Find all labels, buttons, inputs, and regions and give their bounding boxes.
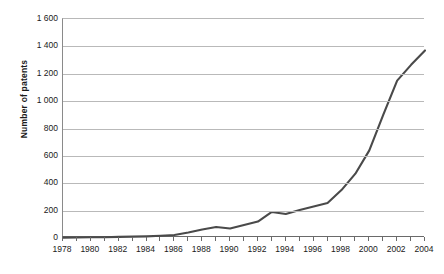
x-tick bbox=[271, 237, 272, 241]
x-tick bbox=[229, 237, 230, 241]
y-tick-label: 0 bbox=[53, 232, 58, 242]
x-tick-label: 1982 bbox=[108, 244, 127, 254]
x-tick-label: 1998 bbox=[331, 244, 350, 254]
x-tick bbox=[132, 237, 133, 241]
gridline bbox=[63, 211, 424, 212]
gridline bbox=[63, 183, 424, 184]
x-tick-label: 1986 bbox=[164, 244, 183, 254]
x-tick bbox=[104, 237, 105, 241]
patents-line-chart: Number of patents 1 6001 4001 2001 00080… bbox=[0, 0, 444, 274]
x-tick-label: 2002 bbox=[387, 244, 406, 254]
gridline bbox=[63, 101, 424, 102]
x-tick-label: 1994 bbox=[275, 244, 294, 254]
x-tick-label: 1978 bbox=[53, 244, 72, 254]
gridline bbox=[63, 74, 424, 75]
x-tick bbox=[340, 237, 341, 241]
y-tick-label: 1 600 bbox=[37, 13, 58, 23]
y-tick-label: 1 000 bbox=[37, 95, 58, 105]
x-tick-label: 2004 bbox=[415, 244, 434, 254]
x-tick-label: 2000 bbox=[359, 244, 378, 254]
x-tick bbox=[257, 237, 258, 241]
x-tick-label: 1992 bbox=[247, 244, 266, 254]
y-tick-label: 1 200 bbox=[37, 68, 58, 78]
x-tick bbox=[62, 237, 63, 241]
series-line-number-of-patents bbox=[63, 50, 425, 237]
x-tick bbox=[313, 237, 314, 241]
x-axis-ticks bbox=[62, 237, 424, 243]
x-tick bbox=[146, 237, 147, 241]
x-tick-label: 1990 bbox=[220, 244, 239, 254]
x-tick bbox=[354, 237, 355, 241]
x-tick bbox=[76, 237, 77, 241]
x-tick bbox=[201, 237, 202, 241]
y-tick-label: 400 bbox=[44, 177, 58, 187]
y-axis-tick-labels: 1 6001 4001 2001 0008006004002000 bbox=[16, 0, 58, 274]
y-tick-label: 800 bbox=[44, 123, 58, 133]
gridline bbox=[63, 46, 424, 47]
x-tick bbox=[118, 237, 119, 241]
gridline bbox=[63, 129, 424, 130]
y-tick-label: 600 bbox=[44, 150, 58, 160]
gridline bbox=[63, 156, 424, 157]
x-tick bbox=[159, 237, 160, 241]
x-tick bbox=[424, 237, 425, 241]
x-tick bbox=[382, 237, 383, 241]
x-tick-label: 1984 bbox=[136, 244, 155, 254]
x-tick bbox=[90, 237, 91, 241]
x-tick bbox=[410, 237, 411, 241]
y-tick-label: 1 400 bbox=[37, 40, 58, 50]
y-tick-label: 200 bbox=[44, 205, 58, 215]
x-tick bbox=[285, 237, 286, 241]
x-axis-tick-labels: 1978198019821984198619881990199219941996… bbox=[0, 244, 444, 262]
x-tick bbox=[299, 237, 300, 241]
x-tick bbox=[243, 237, 244, 241]
x-tick-label: 1980 bbox=[80, 244, 99, 254]
x-tick-label: 1988 bbox=[192, 244, 211, 254]
x-tick bbox=[327, 237, 328, 241]
x-tick bbox=[215, 237, 216, 241]
x-tick-label: 1996 bbox=[303, 244, 322, 254]
x-tick bbox=[173, 237, 174, 241]
x-tick bbox=[187, 237, 188, 241]
x-tick bbox=[396, 237, 397, 241]
x-tick bbox=[368, 237, 369, 241]
plot-area bbox=[62, 18, 424, 237]
